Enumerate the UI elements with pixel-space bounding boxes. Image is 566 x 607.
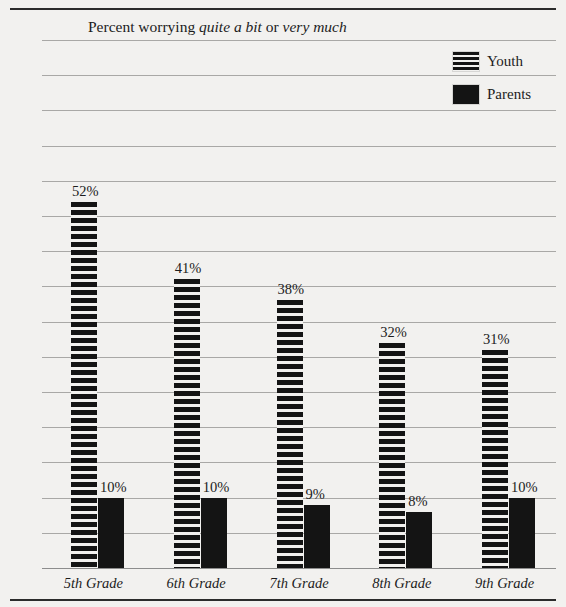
x-axis-tick-label: 7th Grade [244, 575, 354, 592]
bar-group: 41%10% [174, 40, 227, 568]
bar-value-label-youth: 32% [380, 325, 407, 340]
chart-title: Percent worrying quite a bit or very muc… [88, 18, 347, 36]
bar-value-label-parents: 9% [306, 487, 325, 502]
bar-youth [379, 343, 405, 568]
bar-parents [406, 512, 432, 568]
bar-youth [482, 350, 508, 568]
bar-value-label-parents: 10% [100, 480, 127, 495]
x-axis-tick-label: 8th Grade [347, 575, 457, 592]
title-segment-4: very much [283, 18, 347, 35]
bar-parents [201, 498, 227, 568]
x-axis-tick-label: 9th Grade [450, 575, 560, 592]
title-segment-2: quite a bit [199, 18, 262, 35]
bar-group: 38%9% [277, 40, 330, 568]
bar-parents [509, 498, 535, 568]
bar-youth [71, 202, 97, 568]
bar-parents [98, 498, 124, 568]
x-axis-tick-label: 6th Grade [141, 575, 251, 592]
x-axis-line [42, 568, 556, 569]
bar-group: 52%10% [71, 40, 124, 568]
bar-group: 32%8% [379, 40, 432, 568]
x-axis-tick-label: 5th Grade [38, 575, 148, 592]
title-segment-3: or [262, 18, 283, 35]
bar-parents [304, 505, 330, 568]
bar-group: 31%10% [482, 40, 535, 568]
bar-value-label-youth: 31% [483, 332, 510, 347]
bar-value-label-youth: 38% [278, 282, 305, 297]
title-segment-1: Percent worrying [88, 18, 199, 35]
plot-area: 75%70656055504540353025201510552%10%41%1… [42, 40, 556, 568]
bar-chart-figure: Percent worrying quite a bit or very muc… [0, 0, 566, 607]
bar-youth [277, 300, 303, 568]
bar-value-label-youth: 52% [72, 184, 99, 199]
bar-value-label-parents: 10% [203, 480, 230, 495]
bar-value-label-youth: 41% [175, 261, 202, 276]
top-rule [10, 8, 556, 10]
bottom-rule [10, 599, 556, 601]
bar-youth [174, 279, 200, 568]
bar-value-label-parents: 8% [408, 494, 427, 509]
bar-value-label-parents: 10% [511, 480, 538, 495]
